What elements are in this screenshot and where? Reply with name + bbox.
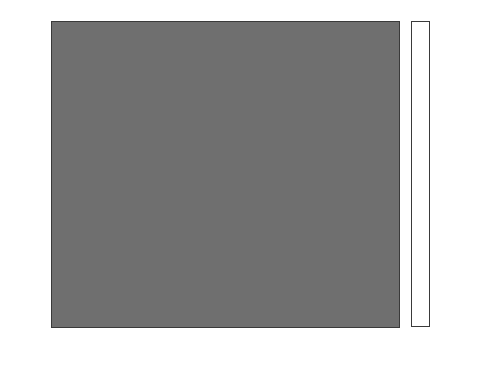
colorbar [411, 21, 430, 327]
spectrogram-plot-area [51, 21, 399, 327]
spectrogram-image [51, 21, 399, 327]
